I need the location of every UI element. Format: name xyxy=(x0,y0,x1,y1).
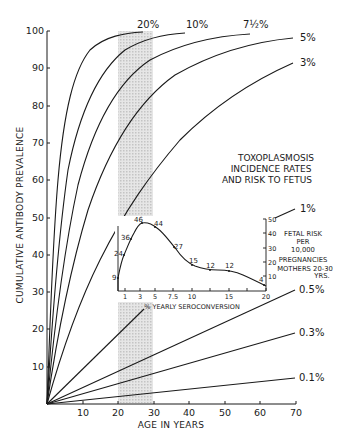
y-tick-labels: 100 90 80 70 60 50 40 30 20 10 xyxy=(26,25,44,372)
svg-text:70: 70 xyxy=(290,407,302,418)
svg-text:50: 50 xyxy=(219,407,231,418)
svg-text:46: 46 xyxy=(134,216,143,224)
label-0-5pct: 0.5% xyxy=(299,284,324,295)
label-0-3pct: 0.3% xyxy=(299,327,324,338)
svg-text:40: 40 xyxy=(32,249,44,260)
svg-text:10: 10 xyxy=(268,273,276,281)
x-axis-title: AGE IN YEARS xyxy=(138,420,205,430)
svg-text:27: 27 xyxy=(174,243,183,251)
svg-text:YRS.: YRS. xyxy=(313,272,329,280)
svg-text:60: 60 xyxy=(32,174,44,185)
svg-text:12: 12 xyxy=(225,262,234,270)
svg-text:20: 20 xyxy=(262,293,270,301)
inset-chart: 9 24 36 46 44 27 15 12 12 4 1 3 5 7.5 10… xyxy=(112,216,276,311)
inset-y-tick-labels: 50 40 30 20 10 xyxy=(268,216,276,281)
svg-text:60: 60 xyxy=(254,407,266,418)
svg-text:15: 15 xyxy=(189,257,198,265)
svg-text:30: 30 xyxy=(32,286,44,297)
label-10pct: 10% xyxy=(186,19,208,30)
svg-text:PREGNANCIES: PREGNANCIES xyxy=(279,256,328,264)
svg-text:12: 12 xyxy=(206,262,215,270)
svg-text:10,000: 10,000 xyxy=(291,246,315,254)
chart-canvas: 100 90 80 70 60 50 40 30 20 10 10 20 30 … xyxy=(0,0,340,434)
label-3pct: 3% xyxy=(300,57,316,68)
svg-text:70: 70 xyxy=(32,137,44,148)
inset-x-axis-title: % YEARLY SEROCONVERSION xyxy=(144,303,240,311)
svg-text:1: 1 xyxy=(123,293,127,301)
svg-text:15: 15 xyxy=(225,293,233,301)
svg-text:10: 10 xyxy=(32,361,44,372)
svg-text:INCIDENCE RATES: INCIDENCE RATES xyxy=(231,164,312,174)
svg-text:50: 50 xyxy=(32,212,44,223)
svg-text:40: 40 xyxy=(183,407,195,418)
svg-text:9: 9 xyxy=(112,274,116,282)
label-1pct: 1% xyxy=(300,203,316,214)
svg-text:80: 80 xyxy=(32,100,44,111)
svg-text:100: 100 xyxy=(26,25,44,36)
inset-title: TOXOPLASMOSIS INCIDENCE RATES AND RISK T… xyxy=(222,153,314,185)
svg-text:24: 24 xyxy=(114,250,123,258)
svg-text:50: 50 xyxy=(268,216,276,224)
svg-text:36: 36 xyxy=(121,234,130,242)
svg-text:30: 30 xyxy=(148,407,160,418)
x-tick-labels: 10 20 30 40 50 60 70 xyxy=(77,407,302,418)
svg-text:20: 20 xyxy=(32,323,44,334)
svg-text:4: 4 xyxy=(259,276,264,284)
svg-text:AND RISK TO FETUS: AND RISK TO FETUS xyxy=(222,175,312,185)
curve-0-3pct xyxy=(47,333,295,404)
label-5pct: 5% xyxy=(300,32,316,43)
svg-text:5: 5 xyxy=(153,293,157,301)
svg-text:90: 90 xyxy=(32,62,44,73)
label-20pct: 20% xyxy=(137,19,159,30)
curve-1pct-end xyxy=(275,209,295,218)
svg-text:20: 20 xyxy=(112,407,124,418)
svg-text:40: 40 xyxy=(268,230,276,238)
inset-side-label: FETAL RISK PER 10,000 PREGNANCIES MOTHER… xyxy=(277,230,333,280)
svg-text:10: 10 xyxy=(77,407,89,418)
y-axis-title: CUMULATIVE ANTIBODY PREVALENCE xyxy=(15,126,25,303)
svg-text:30: 30 xyxy=(268,245,276,253)
label-0-1pct: 0.1% xyxy=(299,372,324,383)
svg-text:7.5: 7.5 xyxy=(168,293,178,301)
svg-text:44: 44 xyxy=(154,220,163,228)
svg-text:TOXOPLASMOSIS: TOXOPLASMOSIS xyxy=(237,153,314,163)
curve-0-1pct xyxy=(47,378,295,404)
svg-text:10: 10 xyxy=(188,293,196,301)
label-7-5pct: 7½% xyxy=(243,19,269,30)
svg-text:20: 20 xyxy=(268,259,276,267)
svg-text:PER: PER xyxy=(296,238,309,246)
curve-labels: 20% 10% 7½% 5% 3% 1% 0.5% 0.3% 0.1% xyxy=(137,19,324,383)
svg-text:FETAL RISK: FETAL RISK xyxy=(284,230,322,238)
svg-text:3: 3 xyxy=(138,293,142,301)
